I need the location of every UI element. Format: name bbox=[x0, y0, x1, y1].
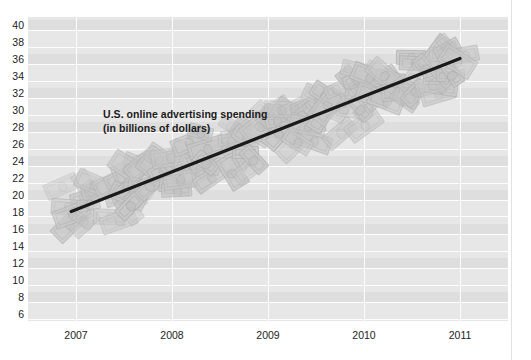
annotation-line-2: (in billions of dollars) bbox=[103, 122, 210, 134]
y-tick-label: 14 bbox=[0, 241, 24, 251]
y-tick-label: 18 bbox=[0, 207, 24, 217]
y-tick-label: 6 bbox=[0, 309, 24, 319]
x-tick-label: 2009 bbox=[238, 329, 298, 341]
x-tick-label: 2007 bbox=[46, 329, 106, 341]
y-tick-label: 8 bbox=[0, 292, 24, 302]
y-tick-label: 30 bbox=[0, 105, 24, 115]
x-tick-label: 2011 bbox=[430, 329, 490, 341]
y-tick-label: 16 bbox=[0, 224, 24, 234]
y-tick-label: 12 bbox=[0, 258, 24, 268]
y-tick-label: 32 bbox=[0, 88, 24, 98]
y-tick-label: 38 bbox=[0, 37, 24, 47]
y-tick-label: 28 bbox=[0, 122, 24, 132]
y-tick-label: 10 bbox=[0, 275, 24, 285]
y-tick-label: 24 bbox=[0, 156, 24, 166]
y-axis-labels: 4038363432302826242220181614121086 bbox=[0, 16, 24, 322]
y-tick-label: 26 bbox=[0, 139, 24, 149]
trend-line bbox=[28, 16, 508, 322]
y-tick-label: 40 bbox=[0, 20, 24, 30]
y-tick-label: 20 bbox=[0, 190, 24, 200]
annotation-line-1: U.S. online advertising spending bbox=[103, 108, 267, 120]
y-tick-label: 22 bbox=[0, 173, 24, 183]
chart-annotation: U.S. online advertising spending(in bill… bbox=[103, 108, 267, 135]
plot-area bbox=[28, 16, 508, 322]
chart-page: 4038363432302826242220181614121086 U.S. … bbox=[0, 0, 531, 360]
x-tick-label: 2010 bbox=[334, 329, 394, 341]
y-tick-label: 34 bbox=[0, 71, 24, 81]
y-tick-label: 36 bbox=[0, 54, 24, 64]
figure-right-rule bbox=[511, 0, 512, 360]
x-tick-label: 2008 bbox=[142, 329, 202, 341]
